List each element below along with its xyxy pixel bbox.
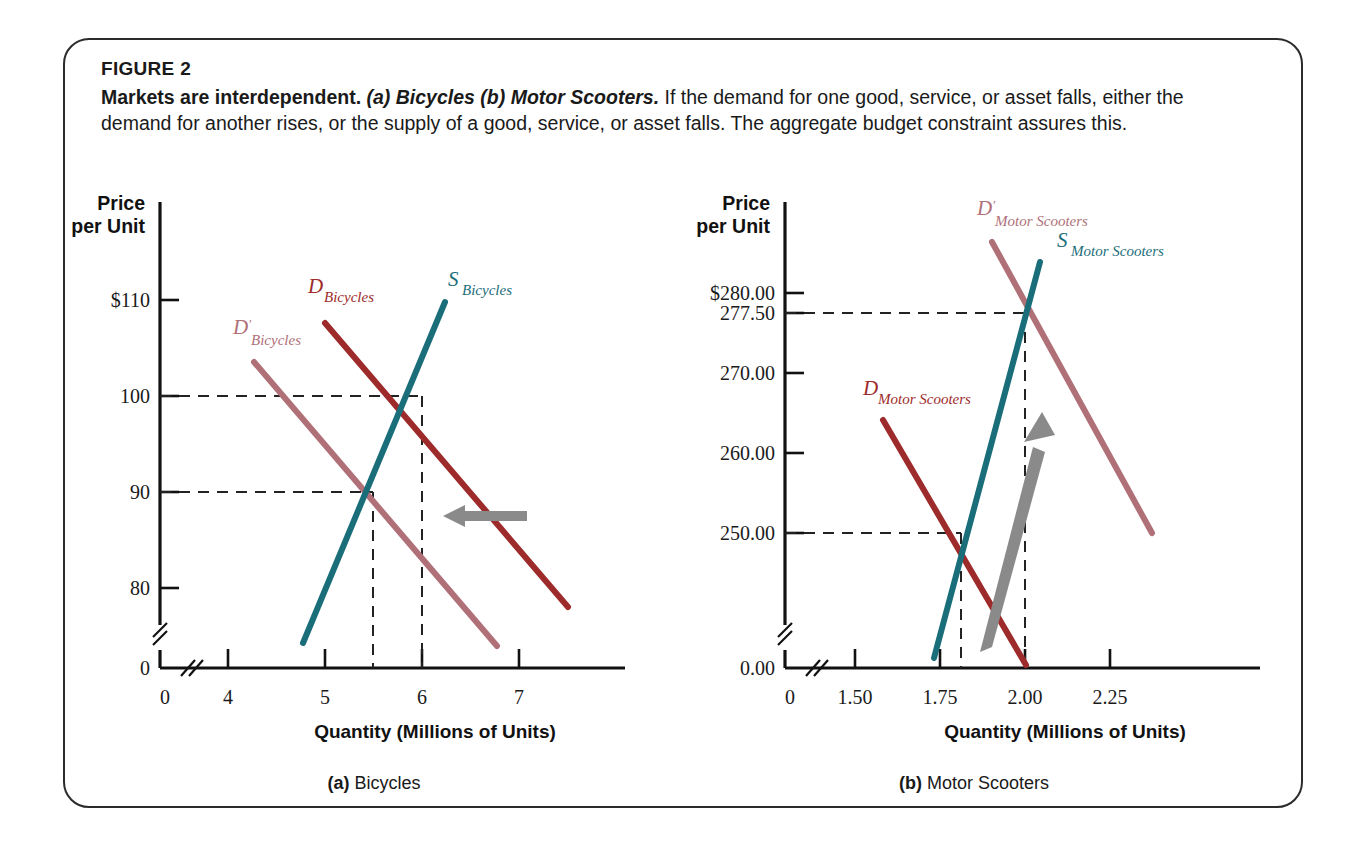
svg-text:Motor Scooters: Motor Scooters [994,213,1088,229]
curve-label-demand-shifted-motor-scooters: D′ Motor Scooters [976,196,1088,229]
svg-text:D′: D′ [976,196,995,220]
chart-bicycles: $110 100 90 80 0 0 4 5 6 7 Price [65,180,683,760]
y-axis-ticks [160,300,179,588]
figure-title: Markets are interdependent. [101,86,361,108]
curve-label-supply-motor-scooters: S Motor Scooters [1057,228,1164,259]
svg-text:D: D [307,274,323,298]
svg-text:D′: D′ [232,315,251,339]
curve-label-supply-bicycles: S Bicycles [448,267,512,298]
panel-label-a: (a) [327,773,349,793]
svg-text:D: D [862,376,878,400]
x-tick-label-0: 0 [160,686,170,708]
y-axis-ticks [785,293,804,533]
panel-motor-scooters: $280.00 277.50 270.00 260.00 250.00 0.00… [665,180,1283,800]
x-tick-label-4: 7 [514,686,524,708]
x-axis-ticks [855,649,1110,668]
y-axis-title-line1: Price [97,192,145,214]
curve-label-demand-motor-scooters: D Motor Scooters [862,376,971,407]
x-tick-label-4: 2.25 [1093,686,1128,708]
figure-caption-block: FIGURE 2 Markets are interdependent. (a)… [101,58,1221,137]
panel-bicycles: $110 100 90 80 0 0 4 5 6 7 Price [65,180,683,800]
equilibrium-guide-lines [160,396,422,668]
y-tick-label-3: 260.00 [720,442,775,464]
x-tick-label-0: 0 [785,686,795,708]
y-tick-label-1: 277.50 [720,302,775,324]
curve-label-demand-shifted-bicycles: D′ Bicycles [232,315,301,348]
curve-demand-motor-scooters [883,420,1026,665]
charts-container: $110 100 90 80 0 0 4 5 6 7 Price [65,180,1301,800]
svg-text:S: S [1057,228,1068,252]
y-tick-label-4: 250.00 [720,522,775,544]
figure-panels-italic: (a) Bicycles (b) Motor Scooters. [367,86,660,108]
y-tick-label-3: 80 [130,577,150,599]
curve-demand-shifted-motor-scooters [992,242,1152,533]
panel-caption-bicycles: (a) Bicycles [65,773,683,794]
y-axis-title-line1: Price [722,192,770,214]
figure-caption: Markets are interdependent. (a) Bicycles… [101,85,1221,137]
svg-text:Bicycles: Bicycles [324,289,374,305]
x-axis-title: Quantity (Millions of Units) [944,721,1186,742]
x-tick-label-2: 5 [320,686,330,708]
x-tick-label-3: 2.00 [1008,686,1043,708]
panel-name-b: Motor Scooters [927,773,1049,793]
y-tick-label-0: $280.00 [710,282,775,304]
y-origin-label: 0 [140,657,150,679]
panel-label-b: (b) [899,773,922,793]
equilibrium-guide-lines [785,313,1025,668]
y-origin-label: 0.00 [740,657,775,679]
curve-demand-bicycles [325,323,568,607]
svg-text:Motor Scooters: Motor Scooters [877,391,971,407]
y-tick-label-0: $110 [111,289,150,311]
x-tick-label-1: 1.50 [838,686,873,708]
svg-text:Motor Scooters: Motor Scooters [1070,243,1164,259]
panel-name-a: Bicycles [355,773,421,793]
curve-demand-shifted-bicycles [254,362,497,646]
y-tick-label-1: 100 [120,385,150,407]
svg-text:S: S [448,267,459,291]
panel-caption-motor-scooters: (b) Motor Scooters [665,773,1283,794]
x-axis-title: Quantity (Millions of Units) [314,721,556,742]
y-tick-label-2: 90 [130,481,150,503]
y-axis-break-mark [153,623,167,645]
y-axis-break-mark [778,623,792,645]
curve-label-demand-bicycles: D Bicycles [307,274,374,305]
svg-text:Bicycles: Bicycles [462,282,512,298]
y-axis-title-line2: per Unit [71,215,145,237]
x-tick-label-2: 1.75 [923,686,958,708]
y-axis-title-line2: per Unit [696,215,770,237]
svg-text:Bicycles: Bicycles [251,332,301,348]
x-tick-label-1: 4 [223,686,233,708]
figure-number: FIGURE 2 [101,58,1221,80]
chart-motor-scooters: $280.00 277.50 270.00 260.00 250.00 0.00… [665,180,1283,760]
y-tick-label-2: 270.00 [720,362,775,384]
figure-frame: FIGURE 2 Markets are interdependent. (a)… [63,38,1303,808]
x-tick-label-3: 6 [417,686,427,708]
